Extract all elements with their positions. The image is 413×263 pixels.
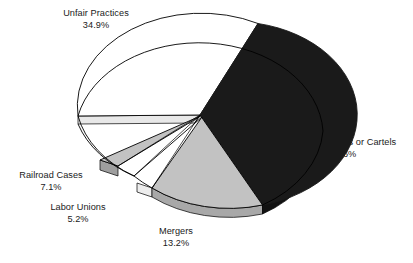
slice-label-labor-unions-name: Labor Unions [32,202,124,214]
slice-label-mergers-value: 13.2% [134,238,218,250]
slice-label-railroad-cases-name: Railroad Cases [4,170,98,182]
slice-label-railroad-cases: Railroad Cases 7.1% [4,170,98,193]
slice-label-pools-or-cartels-name: Pools or Cartels [330,137,413,149]
slice-side-unfair-practices [78,115,200,124]
slice-label-mergers: Mergers 13.2% [134,226,218,249]
slice-label-labor-unions-value: 5.2% [32,214,124,226]
slice-label-unfair-practices-name: Unfair Practices [36,8,156,20]
slice-label-pools-or-cartels-value: 39.6% [330,149,413,161]
pie-chart: Unfair Practices 34.9% Pools or Cartels … [0,0,413,263]
pie-slice-tops [77,13,357,208]
slice-label-mergers-name: Mergers [134,226,218,238]
slice-label-unfair-practices-value: 34.9% [36,20,156,32]
slice-label-labor-unions: Labor Unions 5.2% [32,202,124,225]
slice-label-unfair-practices: Unfair Practices 34.9% [36,8,156,31]
slice-label-pools-or-cartels: Pools or Cartels 39.6% [330,137,413,160]
slice-label-railroad-cases-value: 7.1% [4,182,98,194]
